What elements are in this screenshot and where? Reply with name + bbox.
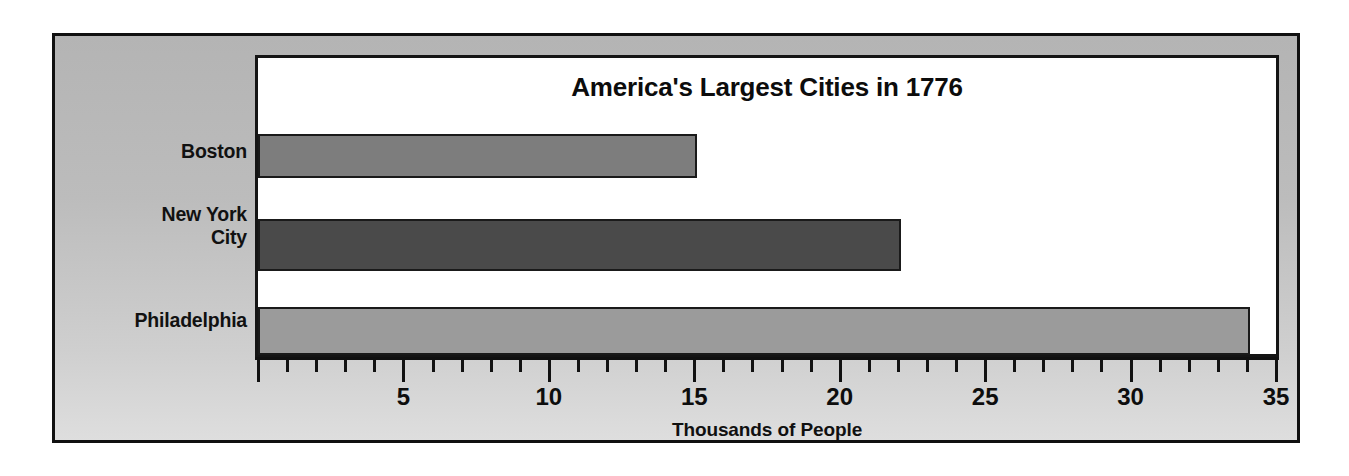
x-axis-minor-tick <box>606 360 609 372</box>
x-axis-minor-tick <box>781 360 784 372</box>
x-axis-minor-tick <box>490 360 493 372</box>
category-label-line: New York <box>162 203 247 225</box>
x-axis-major-tick <box>839 360 842 382</box>
x-axis-tick-label: 25 <box>972 383 999 411</box>
x-axis-minor-tick <box>955 360 958 372</box>
category-axis: Boston New YorkCity Philadelphia <box>55 36 255 440</box>
x-axis-major-tick <box>984 360 987 382</box>
x-axis-minor-tick <box>286 360 289 372</box>
x-axis-minor-tick <box>722 360 725 372</box>
x-axis-minor-tick <box>1042 360 1045 372</box>
category-label-new-york-city: New YorkCity <box>55 203 247 248</box>
category-label-line: Boston <box>181 140 247 162</box>
x-axis-major-tick <box>693 360 696 382</box>
x-axis-tick-label: 35 <box>1263 383 1290 411</box>
x-axis-tick-label: 15 <box>681 383 708 411</box>
x-axis-minor-tick <box>1013 360 1016 372</box>
x-axis-minor-tick <box>1217 360 1220 372</box>
plot-area: America's Largest Cities in 1776 <box>255 55 1279 357</box>
x-axis-minor-tick <box>810 360 813 372</box>
category-label-line: City <box>211 226 247 248</box>
category-label-line: Philadelphia <box>135 309 247 331</box>
x-axis-major-tick <box>1275 360 1278 382</box>
bars-layer <box>258 58 1276 354</box>
x-axis-title: Thousands of People <box>255 419 1279 441</box>
x-axis-minor-tick <box>635 360 638 372</box>
x-axis-minor-tick <box>1246 360 1249 372</box>
chart-figure-frame: Boston New YorkCity Philadelphia America… <box>52 33 1300 443</box>
x-axis-minor-tick <box>664 360 667 372</box>
x-axis-minor-tick <box>461 360 464 372</box>
x-axis-major-tick <box>548 360 551 382</box>
x-axis-minor-tick <box>868 360 871 372</box>
x-axis-tick-label: 5 <box>397 383 410 411</box>
x-axis-minor-tick <box>1071 360 1074 372</box>
x-axis-tick-label: 20 <box>826 383 853 411</box>
x-axis-major-tick <box>402 360 405 382</box>
x-axis-minor-tick <box>577 360 580 372</box>
bar-boston <box>258 134 697 178</box>
x-axis-minor-tick <box>1159 360 1162 372</box>
x-axis-minor-tick <box>897 360 900 372</box>
x-axis-line <box>255 357 1279 360</box>
bar-philadelphia <box>258 307 1250 355</box>
x-axis-minor-tick <box>373 360 376 372</box>
x-axis-minor-tick <box>1100 360 1103 372</box>
x-axis-minor-tick <box>926 360 929 372</box>
x-axis-minor-tick <box>315 360 318 372</box>
category-label-boston: Boston <box>55 140 247 163</box>
x-axis-tick-label: 30 <box>1117 383 1144 411</box>
x-axis-tick-label: 10 <box>535 383 562 411</box>
x-axis-minor-tick <box>432 360 435 372</box>
bar-new-york-city <box>258 219 901 271</box>
category-label-philadelphia: Philadelphia <box>55 309 247 332</box>
x-axis-major-tick <box>257 360 260 382</box>
x-axis-minor-tick <box>519 360 522 372</box>
x-axis: 5101520253035 Thousands of People <box>255 357 1279 447</box>
x-axis-minor-tick <box>344 360 347 372</box>
x-axis-major-tick <box>1130 360 1133 382</box>
x-axis-minor-tick <box>1188 360 1191 372</box>
x-axis-minor-tick <box>751 360 754 372</box>
